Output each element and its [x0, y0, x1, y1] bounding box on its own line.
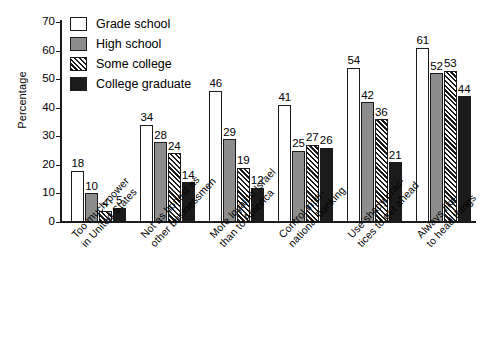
bar-value-label: 24: [164, 141, 185, 152]
bar-value-label: 18: [67, 158, 88, 169]
bar[interactable]: [209, 91, 222, 222]
bar[interactable]: [430, 73, 443, 222]
bar-value-label: 42: [357, 90, 378, 101]
bar-value-label: 10: [81, 181, 102, 192]
y-axis-tick-label: 10: [29, 187, 55, 198]
y-axis-tick-label: 60: [29, 45, 55, 56]
bar[interactable]: [71, 171, 84, 222]
bar-value-label: 26: [316, 135, 337, 146]
bar-value-label: 19: [233, 155, 254, 166]
bar-value-label: 53: [440, 58, 461, 69]
bar-value-label: 29: [219, 127, 240, 138]
bar-value-label: 44: [454, 84, 475, 95]
y-axis-ticks: 010203040506070: [0, 0, 55, 338]
bar-value-label: 36: [371, 107, 392, 118]
bar-value-label: 28: [150, 130, 171, 141]
y-axis-tick-label: 30: [29, 130, 55, 141]
y-axis-tick-label: 50: [29, 73, 55, 84]
y-axis-tick-label: 40: [29, 102, 55, 113]
bar[interactable]: [416, 48, 429, 222]
bar-value-label: 61: [412, 35, 433, 46]
y-axis-tick-label: 70: [29, 16, 55, 27]
y-axis-tick-label: 20: [29, 159, 55, 170]
bar-value-label: 21: [385, 150, 406, 161]
bar-value-label: 54: [343, 55, 364, 66]
bar[interactable]: [278, 105, 291, 222]
y-axis-tick-label: 0: [29, 216, 55, 227]
bar-chart: Percentage 010203040506070 Grade schoolH…: [0, 0, 488, 338]
bar-value-label: 46: [205, 78, 226, 89]
bar-value-label: 34: [136, 112, 157, 123]
bar-value-label: 41: [274, 92, 295, 103]
